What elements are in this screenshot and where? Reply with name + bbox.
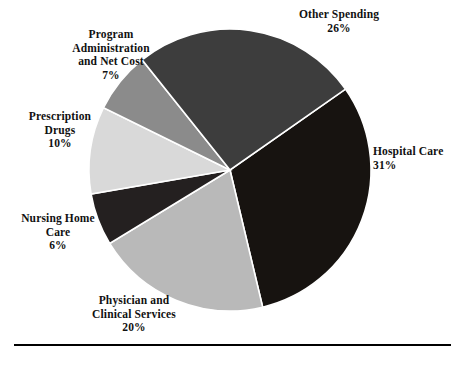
pie-label-hospital-care: Hospital Care 31%	[373, 145, 463, 172]
pie-label-program-administration-and-net-cost: Program Administration and Net Cost 7%	[44, 28, 178, 82]
pie-label-nursing-home-care: Nursing Home Care 6%	[2, 212, 114, 253]
pie-label-physician-and-clinical-services: Physician and Clinical Services 20%	[62, 294, 206, 335]
pie-chart-figure: Other Spending 26% Hospital Care 31% Phy…	[0, 0, 463, 365]
footer-rule	[14, 344, 451, 346]
pie-label-other-spending: Other Spending 26%	[281, 8, 397, 35]
pie-label-prescription-drugs: Prescription Drugs 10%	[6, 110, 114, 151]
